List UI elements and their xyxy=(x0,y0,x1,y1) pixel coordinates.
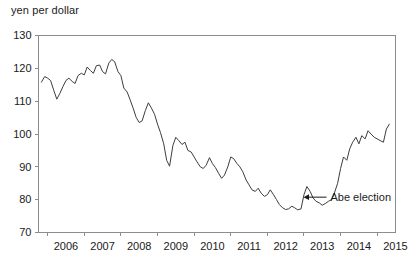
x-tick-label: 2007 xyxy=(90,240,114,252)
y-tick-label: 110 xyxy=(14,95,32,107)
series-line xyxy=(41,59,389,209)
annotation-label: Abe election xyxy=(330,191,391,203)
y-tick-label: 70 xyxy=(19,226,31,238)
y-axis-ticks: 708090100110120130 xyxy=(13,29,38,238)
x-tick-label: 2013 xyxy=(310,240,334,252)
chart-plot-area: 708090100110120130 200620072008200920102… xyxy=(0,0,411,271)
x-tick-label: 2011 xyxy=(237,240,261,252)
y-tick-label: 130 xyxy=(13,29,31,41)
x-tick-label: 2006 xyxy=(54,240,78,252)
y-tick-label: 120 xyxy=(13,62,31,74)
x-tick-label: 2015 xyxy=(383,240,407,252)
x-tick-label: 2008 xyxy=(127,240,151,252)
chart-figure: yen per dollar 708090100110120130 200620… xyxy=(0,0,411,271)
x-tick-label: 2014 xyxy=(347,240,371,252)
y-tick-label: 90 xyxy=(19,161,31,173)
plot-frame xyxy=(39,36,396,233)
x-tick-label: 2010 xyxy=(200,240,224,252)
y-tick-label: 100 xyxy=(13,128,31,140)
x-tick-label: 2012 xyxy=(273,240,297,252)
x-tick-label: 2009 xyxy=(164,240,188,252)
y-tick-label: 80 xyxy=(19,193,31,205)
x-axis-ticks: 2006200720082009201020112012201320142015 xyxy=(48,233,408,252)
data-series-group xyxy=(41,59,389,209)
annotation-group: Abe election xyxy=(303,191,391,203)
